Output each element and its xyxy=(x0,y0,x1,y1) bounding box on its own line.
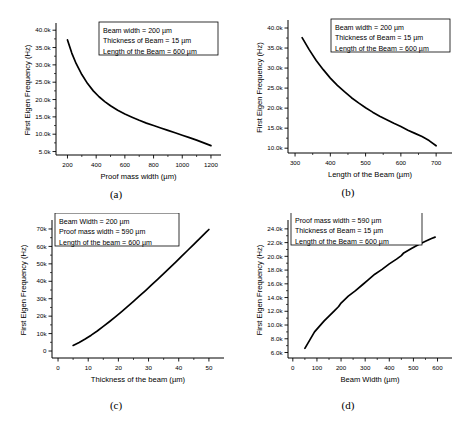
data-curve-b xyxy=(302,38,436,146)
x-tick-label-b: 500 xyxy=(360,159,371,166)
y-tick-label-a: 10.0k xyxy=(35,130,51,137)
x-tick-label-b: 400 xyxy=(325,159,336,166)
legend-line-d: Thickness of Beam = 15 µm xyxy=(295,227,383,235)
legend-line-b: Length of the Beam = 600 µm xyxy=(335,45,429,53)
legend-line-c: Beam Width = 200 µm xyxy=(59,218,130,226)
legend-line-c: Length of the beam = 600 µm xyxy=(59,239,152,247)
x-tick-label-a: 200 xyxy=(62,161,73,168)
y-tick-label-b: 15.0k xyxy=(267,124,283,131)
y-tick-label-b: 20.0k xyxy=(267,104,283,111)
x-axis-title-b: Length of the Beam (µm) xyxy=(328,170,413,179)
panel-a: 200400600800100012005.0k10.0k15.0k20.0k2… xyxy=(0,0,232,213)
y-tick-label-c: 60k xyxy=(37,243,48,250)
legend-line-b: Thickness of Beam = 15 µm xyxy=(335,34,423,42)
y-tick-label-d: 16.0k xyxy=(267,280,283,287)
subfigure-label-b: (b) xyxy=(342,186,355,199)
y-tick-label-d: 14.0k xyxy=(267,294,283,301)
subfigure-label-d: (d) xyxy=(342,399,355,412)
plot-b: 30040050060070010.0k15.0k20.0k25.0k30.0k… xyxy=(232,0,464,213)
x-tick-label-d: 0 xyxy=(291,364,295,371)
x-tick-label-a: 600 xyxy=(120,161,131,168)
x-tick-label-a: 800 xyxy=(148,161,159,168)
y-tick-label-d: 22.0k xyxy=(267,239,283,246)
data-curve-a xyxy=(67,40,210,146)
y-axis-title-c: First Eigen Frequency (Hz) xyxy=(19,244,28,335)
data-curve-c xyxy=(73,230,209,346)
x-axis-title-c: Thickness of the beam (µm) xyxy=(91,375,186,384)
x-tick-label-b: 300 xyxy=(290,159,301,166)
legend-line-d: Proof mass width = 590 µm xyxy=(295,217,381,225)
legend-line-c: Proof mass width = 590 µm xyxy=(59,228,145,236)
x-tick-label-d: 600 xyxy=(432,364,443,371)
x-tick-label-a: 1200 xyxy=(204,161,218,168)
x-tick-label-d: 400 xyxy=(384,364,395,371)
y-tick-label-a: 25.0k xyxy=(35,78,51,85)
y-tick-label-c: 30k xyxy=(37,295,48,302)
y-tick-label-b: 30.0k xyxy=(267,64,283,71)
y-tick-label-d: 12.0k xyxy=(267,307,283,314)
panel-c: 01020304050010k20k30k40k50k60k70kThickne… xyxy=(0,213,232,426)
x-tick-label-b: 600 xyxy=(396,159,407,166)
x-tick-label-a: 400 xyxy=(91,161,102,168)
y-tick-label-c: 10k xyxy=(37,330,48,337)
y-tick-label-a: 15.0k xyxy=(35,113,51,120)
x-tick-label-c: 30 xyxy=(145,364,152,371)
x-tick-label-c: 50 xyxy=(205,364,212,371)
x-tick-label-c: 10 xyxy=(85,364,92,371)
panel-b: 30040050060070010.0k15.0k20.0k25.0k30.0k… xyxy=(232,0,464,213)
y-tick-label-c: 0 xyxy=(43,347,47,354)
x-tick-label-c: 40 xyxy=(175,364,182,371)
y-tick-label-a: 5.0k xyxy=(39,148,52,155)
y-tick-label-b: 40.0k xyxy=(267,24,283,31)
y-tick-label-d: 18.0k xyxy=(267,266,283,273)
y-tick-label-a: 35.0k xyxy=(35,44,51,51)
y-tick-label-d: 20.0k xyxy=(267,253,283,260)
y-tick-label-d: 24.0k xyxy=(267,225,283,232)
plot-a: 200400600800100012005.0k10.0k15.0k20.0k2… xyxy=(0,0,232,213)
y-tick-label-a: 30.0k xyxy=(35,61,51,68)
x-tick-label-c: 20 xyxy=(115,364,122,371)
y-axis-title-a: First Eigen Frequency (Hz) xyxy=(23,44,32,135)
y-tick-label-a: 20.0k xyxy=(35,96,51,103)
x-tick-label-d: 300 xyxy=(360,364,371,371)
x-tick-label-a: 1000 xyxy=(175,161,189,168)
legend-line-a: Beam width = 200 µm xyxy=(103,27,172,35)
subfigure-label-c: (c) xyxy=(110,399,123,412)
y-tick-label-c: 50k xyxy=(37,260,48,267)
data-curve-d xyxy=(305,237,435,348)
x-axis-title-a: Proof mass width (µm) xyxy=(100,172,177,181)
x-tick-label-d: 100 xyxy=(312,364,323,371)
y-tick-label-a: 40.0k xyxy=(35,26,51,33)
panel-d: 01002003004005006006.0k8.0k10.0k12.0k14.… xyxy=(232,213,464,426)
legend-line-d: Length of the Beam = 600 µm xyxy=(295,238,389,246)
x-tick-label-b: 700 xyxy=(431,159,442,166)
x-tick-label-c: 0 xyxy=(56,364,60,371)
legend-line-a: Length of the Beam = 600 µm xyxy=(103,48,197,56)
x-tick-label-d: 200 xyxy=(336,364,347,371)
y-tick-label-b: 10.0k xyxy=(267,144,283,151)
y-tick-label-d: 8.0k xyxy=(271,335,284,342)
plot-c: 01020304050010k20k30k40k50k60k70kThickne… xyxy=(0,213,232,426)
legend-line-b: Beam width = 200 µm xyxy=(335,24,404,32)
y-tick-label-b: 35.0k xyxy=(267,44,283,51)
y-axis-title-b: First Eigen Frequency (Hz) xyxy=(255,42,264,133)
y-tick-label-d: 6.0k xyxy=(271,349,284,356)
y-tick-label-c: 70k xyxy=(37,225,48,232)
legend-line-a: Thickness of Beam = 15 µm xyxy=(103,37,191,45)
y-tick-label-c: 20k xyxy=(37,312,48,319)
x-axis-title-d: Beam Width (µm) xyxy=(340,375,400,384)
y-tick-label-c: 40k xyxy=(37,277,48,284)
y-axis-title-d: First Eigen Frequency (Hz) xyxy=(255,244,264,335)
y-tick-label-d: 10.0k xyxy=(267,321,283,328)
subfigure-label-a: (a) xyxy=(110,188,123,201)
figure-four-panel-eigenfrequency-plots: 200400600800100012005.0k10.0k15.0k20.0k2… xyxy=(0,0,464,427)
plot-d: 01002003004005006006.0k8.0k10.0k12.0k14.… xyxy=(232,213,464,426)
y-tick-label-b: 25.0k xyxy=(267,84,283,91)
x-tick-label-d: 500 xyxy=(408,364,419,371)
